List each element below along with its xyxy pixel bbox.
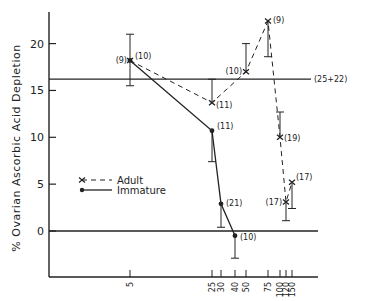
dot-marker-icon — [128, 58, 133, 63]
x-tick-label: 150 — [288, 282, 297, 297]
y-tick-label: 20 — [30, 38, 44, 51]
dot-marker-icon — [233, 233, 238, 238]
sample-size-label: (19) — [284, 134, 300, 143]
sample-size-label: (17) — [296, 173, 312, 182]
sample-size-label: (10) — [240, 233, 256, 242]
y-tick-label: 5 — [37, 178, 44, 191]
reference-lines: (25+22) — [49, 75, 347, 231]
legend-immature-label: Immature — [117, 185, 166, 196]
sample-size-label: (10) — [226, 67, 242, 76]
dot-marker-icon — [219, 201, 224, 206]
sample-size-label: (9) — [273, 16, 284, 25]
y-tick-label: 10 — [30, 131, 44, 144]
y-axis-title: % Ovarian Ascorbic Acid Depletion — [10, 44, 23, 251]
sample-size-label: (11) — [216, 101, 232, 110]
x-tick-label: 25 — [208, 282, 217, 292]
x-tick-label: 75 — [264, 282, 273, 292]
legend: AdultImmature — [79, 175, 166, 196]
sample-size-label: (21) — [226, 199, 242, 208]
reference-line-label: (25+22) — [314, 75, 347, 84]
dot-marker-icon — [210, 128, 215, 133]
x-tick-label: 30 — [217, 282, 226, 292]
sample-size-label: (10) — [135, 52, 151, 61]
x-tick-label: 5 — [126, 282, 135, 287]
immature-series-line — [130, 60, 235, 235]
series-layer: (9)(11)(10)(9)(19)(17)(17)(10)(11)(21)(1… — [116, 16, 313, 258]
y-tick-label: 15 — [30, 84, 44, 97]
sample-size-label: (17) — [266, 198, 282, 207]
chart: 0510152052530405075100120150 (25+22) (9)… — [0, 0, 365, 301]
y-tick-label: 0 — [37, 225, 44, 238]
x-tick-label: 40 — [231, 282, 240, 292]
x-tick-label: 50 — [242, 282, 251, 292]
sample-size-label: (9) — [116, 56, 127, 65]
sample-size-label: (11) — [217, 122, 233, 131]
axes: 0510152052530405075100120150 — [30, 12, 318, 297]
legend-dot-marker-icon — [80, 188, 84, 192]
